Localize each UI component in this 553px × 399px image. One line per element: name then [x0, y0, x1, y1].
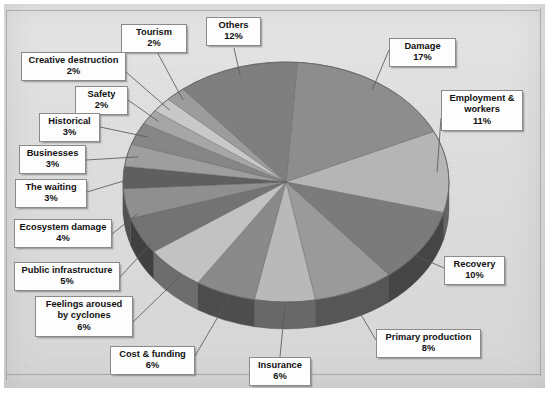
pie-label-feelings-aroused-by-cyclones[interactable]: Feelings aroused by cyclones 6%: [35, 296, 133, 337]
pie-label-creative-destruction[interactable]: Creative destruction 2%: [21, 52, 126, 81]
pie-label-insurance-name: Insurance: [254, 360, 306, 371]
pie-label-creative-destruction-name: Creative destruction: [26, 55, 121, 66]
pie-top-face: Damage 17%Employment & workers 11%Recove…: [123, 62, 449, 302]
pie-label-others-pct: 12%: [211, 31, 256, 42]
pie-label-public-infrastructure-pct: 5%: [19, 276, 115, 287]
pie-label-recovery-name: Recovery: [449, 259, 500, 270]
pie-label-historical-pct: 3%: [44, 127, 95, 138]
pie-label-safety-pct: 2%: [80, 100, 123, 111]
pie-label-damage[interactable]: Damage 17%: [389, 38, 456, 67]
pie-label-the-waiting-name: The waiting: [20, 182, 82, 193]
pie-label-others[interactable]: Others 12%: [206, 17, 261, 46]
pie-label-damage-name: Damage: [394, 41, 451, 52]
pie-label-insurance[interactable]: Insurance 6%: [249, 357, 311, 386]
pie-label-tourism[interactable]: Tourism 2%: [121, 24, 187, 53]
pie-label-tourism-name: Tourism: [126, 27, 182, 38]
pie-label-creative-destruction-pct: 2%: [26, 66, 121, 77]
pie-label-insurance-pct: 6%: [254, 371, 306, 382]
pie-label-recovery[interactable]: Recovery 10%: [444, 256, 505, 285]
pie-label-recovery-pct: 10%: [449, 270, 500, 281]
pie-label-safety-name: Safety: [80, 89, 123, 100]
screenshot-root: Damage 17%Employment & workers 11%Recove…: [0, 0, 553, 399]
pie-label-employment-and-workers-name: Employment & workers: [446, 93, 518, 116]
pie-label-feelings-aroused-by-cyclones-pct: 6%: [40, 322, 128, 333]
pie-label-employment-and-workers[interactable]: Employment & workers 11%: [441, 90, 523, 131]
pie-label-cost-and-funding-pct: 6%: [115, 360, 190, 371]
pie-label-public-infrastructure[interactable]: Public infrastructure 5%: [14, 262, 120, 291]
pie-label-primary-production-name: Primary production: [381, 332, 476, 343]
pie-label-primary-production-pct: 8%: [381, 343, 476, 354]
leader-line: [126, 72, 170, 110]
pie-label-historical[interactable]: Historical 3%: [39, 113, 100, 142]
pie-slice-side: [254, 300, 315, 329]
pie-label-the-waiting-pct: 3%: [20, 193, 82, 204]
pie-label-primary-production[interactable]: Primary production 8%: [376, 329, 481, 358]
pie-label-public-infrastructure-name: Public infrastructure: [19, 265, 115, 276]
leader-line: [155, 48, 183, 100]
pie-label-businesses-pct: 3%: [24, 159, 81, 170]
pie-label-historical-name: Historical: [44, 116, 95, 127]
pie-label-ecosystem-damage-name: Ecosystem damage: [19, 222, 107, 233]
pie-label-businesses-name: Businesses: [24, 148, 81, 159]
pie-label-ecosystem-damage-pct: 4%: [19, 233, 107, 244]
pie-label-tourism-pct: 2%: [126, 38, 182, 49]
pie-label-ecosystem-damage[interactable]: Ecosystem damage 4%: [14, 219, 112, 248]
pie-label-businesses[interactable]: Businesses 3%: [19, 145, 86, 174]
pie-label-cost-and-funding[interactable]: Cost & funding 6%: [110, 346, 195, 375]
pie-label-others-name: Others: [211, 20, 256, 31]
leader-line: [128, 100, 159, 122]
pie-label-feelings-aroused-by-cyclones-name: Feelings aroused by cyclones: [40, 299, 128, 322]
pie-label-cost-and-funding-name: Cost & funding: [115, 349, 190, 360]
pie-label-safety[interactable]: Safety 2%: [75, 86, 128, 115]
pie-label-employment-and-workers-pct: 11%: [446, 116, 518, 127]
pie-label-the-waiting[interactable]: The waiting 3%: [15, 179, 87, 208]
pie-label-damage-pct: 17%: [394, 52, 451, 63]
